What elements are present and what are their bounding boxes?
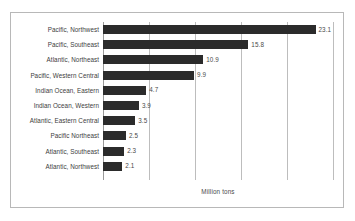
plot-area: 23.115.810.99.94.73.93.52.52.32.1 — [103, 22, 333, 180]
bar-row: 4.7 — [103, 83, 333, 98]
bar-value-label: 3.9 — [142, 101, 151, 111]
bar-value-label: 15.8 — [251, 40, 264, 50]
bar — [103, 147, 124, 156]
bar — [103, 25, 316, 34]
bar-value-label: 2.1 — [125, 161, 134, 171]
category-label: Atlantic, Eastern Central — [0, 113, 99, 128]
category-label: Atlantic, Southeast — [0, 144, 99, 159]
category-axis-labels: Pacific, NorthwestPacific, SoutheastAtla… — [0, 22, 99, 180]
bar-series: 23.115.810.99.94.73.93.52.52.32.1 — [103, 22, 333, 180]
bar-row: 3.5 — [103, 113, 333, 128]
bar-row: 23.1 — [103, 22, 333, 37]
category-label: Pacific, Northwest — [0, 22, 99, 37]
category-label: Indian Ocean, Western — [0, 98, 99, 113]
bar-value-label: 2.3 — [127, 146, 136, 156]
x-axis-title: Million tons — [103, 188, 333, 195]
bar — [103, 131, 126, 140]
bar — [103, 71, 194, 80]
category-label: Atlantic, Northeast — [0, 52, 99, 67]
bar-value-label: 4.7 — [149, 85, 158, 95]
bar-row: 2.3 — [103, 144, 333, 159]
gridline-25 — [333, 22, 334, 180]
bar-row: 2.5 — [103, 128, 333, 143]
bar-row: 15.8 — [103, 37, 333, 52]
category-label: Indian Ocean, Eastern — [0, 83, 99, 98]
category-label: Pacific Northeast — [0, 128, 99, 143]
bar-value-label: 10.9 — [206, 55, 219, 65]
bar-value-label: 3.5 — [138, 116, 147, 126]
bar-value-label: 2.5 — [129, 131, 138, 141]
bar — [103, 101, 139, 110]
bar — [103, 86, 146, 95]
category-label: Pacific, Southeast — [0, 37, 99, 52]
bar — [103, 55, 203, 64]
bar-value-label: 9.9 — [197, 70, 206, 80]
bar-chart-figure: Pacific, NorthwestPacific, SoutheastAtla… — [0, 0, 355, 221]
bar-row: 10.9 — [103, 52, 333, 67]
bar-row: 9.9 — [103, 68, 333, 83]
bar — [103, 40, 248, 49]
bar — [103, 162, 122, 171]
bar-value-label: 23.1 — [319, 25, 332, 35]
bar-row: 2.1 — [103, 159, 333, 174]
category-label: Pacific, Western Central — [0, 68, 99, 83]
bar — [103, 116, 135, 125]
category-label: Atlantic, Northwest — [0, 159, 99, 174]
bar-row: 3.9 — [103, 98, 333, 113]
